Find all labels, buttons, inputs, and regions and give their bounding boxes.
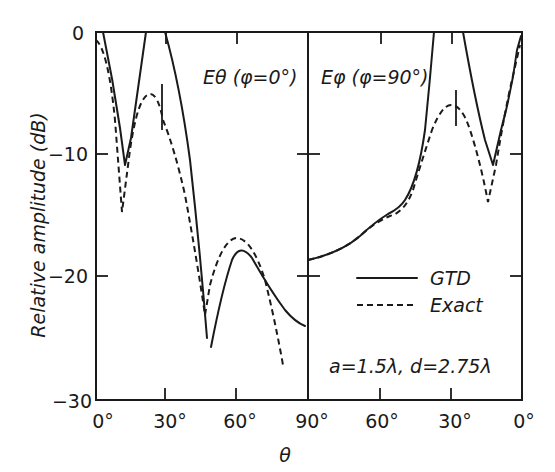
y-axis-label: Relative amplitude (dB) <box>27 112 49 338</box>
y-ticks-right <box>510 154 522 276</box>
svg-text:60°: 60° <box>223 410 257 432</box>
svg-text:30°: 30° <box>438 410 472 432</box>
legend-gtd-label: GTD <box>430 267 471 289</box>
y-tick-neg10: −10 <box>48 143 88 165</box>
svg-text:0°: 0° <box>92 410 114 432</box>
y-tick-neg20: −20 <box>48 265 88 287</box>
parameter-annotation: a=1.5λ, d=2.75λ <box>329 355 492 377</box>
panel-left-title: Eθ (φ=0°) <box>203 66 298 88</box>
svg-text:90°: 90° <box>295 410 329 432</box>
x-tick-labels: 0° 30° 60° 90° 60° 30° 0° <box>92 410 535 432</box>
y-tick-labels: 0 −10 −20 −30 <box>48 22 92 412</box>
svg-text:30°: 30° <box>153 410 187 432</box>
svg-text:60°: 60° <box>365 410 399 432</box>
legend-exact-label: Exact <box>430 294 484 316</box>
panel-right-title: Eφ (φ=90°) <box>321 66 429 88</box>
y-tick-neg30: −30 <box>52 390 92 412</box>
radiation-pattern-chart: 0 −10 −20 −30 0° 30° 60° 90° 60° 30° 0° … <box>0 0 555 472</box>
x-axis-label: θ <box>279 444 291 466</box>
y-ticks-left <box>96 154 108 276</box>
y-tick-0: 0 <box>72 22 84 44</box>
series-exact-left <box>96 40 283 365</box>
legend: GTD Exact <box>357 267 484 316</box>
svg-text:0°: 0° <box>513 410 535 432</box>
